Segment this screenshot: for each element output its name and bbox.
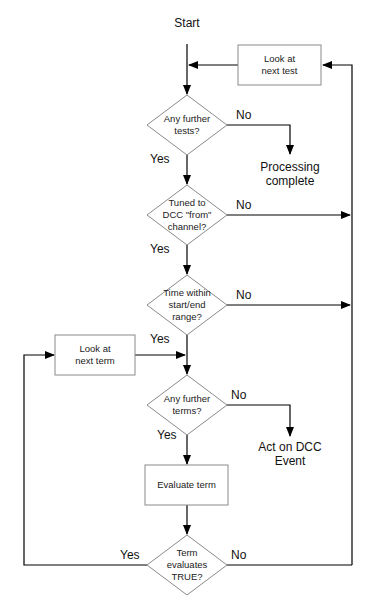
tuned-to-channel-text: Tuned to DCC "from" channel?	[147, 192, 227, 238]
no-label-2: No	[236, 198, 251, 212]
evaluate-term-text: Evaluate term	[145, 465, 228, 505]
start-label: Start	[157, 16, 217, 30]
no-label-4: No	[231, 388, 246, 402]
time-within-range-text: Time within start/end range?	[147, 282, 227, 328]
yes-label-1: Yes	[150, 152, 170, 166]
look-next-test-text: Look at next test	[238, 45, 321, 85]
no-label-3: No	[236, 288, 251, 302]
term-true-text: Term evaluates TRUE?	[147, 542, 227, 588]
yes-label-4: Yes	[157, 428, 177, 442]
processing-complete-label: Processing complete	[245, 160, 335, 188]
connector-right-loop	[323, 65, 352, 565]
no-label-5: No	[231, 548, 246, 562]
yes-label-2: Yes	[150, 242, 170, 256]
yes-label-5: Yes	[120, 548, 140, 562]
yes-label-3: Yes	[150, 332, 170, 346]
connector-d4-no	[227, 405, 290, 436]
act-on-event-label: Act on DCC Event	[245, 440, 335, 468]
look-next-term-text: Look at next term	[55, 335, 135, 375]
connector-left-loop	[24, 355, 147, 565]
any-further-tests-text: Any further tests?	[147, 105, 227, 145]
connector-d1-no	[227, 125, 290, 154]
any-further-terms-text: Any further terms?	[147, 385, 227, 425]
no-label-1: No	[236, 108, 251, 122]
